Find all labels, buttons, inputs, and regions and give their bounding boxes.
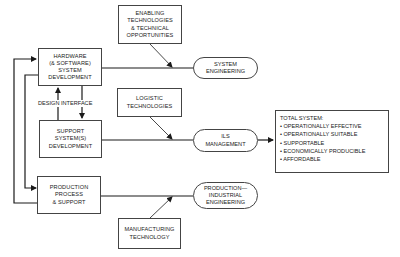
logistic-technologies-box: LOGISTIC TECHNOLOGIES [117,88,182,117]
total-system-title: TOTAL SYSTEM: [280,114,384,122]
box-line: & TECHNICAL [131,25,169,32]
box-line: DEVELOPMENT [49,143,92,150]
production-process-support-box: PRODUCTION PROCESS & SUPPORT [37,176,101,214]
oval-line: MANAGEMENT [205,141,245,148]
ils-management-oval: ILS MANAGEMENT [193,129,258,152]
total-system-box: TOTAL SYSTEM: • OPERATIONALLY EFFECTIVE … [275,110,389,173]
total-system-item: • AFFORDABLE [280,155,384,163]
box-line: SYSTEM [58,67,82,74]
oval-line: SYSTEM [214,61,237,68]
box-line: DEVELOPMENT [48,74,91,81]
enabling-technologies-box: ENABLING TECHNOLOGIES & TECHNICAL OPPORT… [118,5,182,44]
box-line: TECHNOLOGIES [127,103,173,110]
design-interface-label: DESIGN INTERFACE [37,100,93,107]
total-system-item: • OPERATIONALLY SUITABLE [280,130,384,138]
box-line: OPPORTUNITIES [127,32,174,39]
box-line: SYSTEM(S) [55,135,86,142]
box-line: MANUFACTURING [124,226,174,233]
box-line: HARDWARE [53,53,86,60]
box-line: (& SOFTWARE) [49,60,91,67]
oval-line: ILS [221,133,229,140]
total-system-item: • ECONOMICALLY PRODUCIBLE [280,147,384,155]
system-engineering-oval: SYSTEM ENGINEERING [193,57,258,79]
oval-line: PRODUCTION— [204,185,247,192]
box-line: ENABLING [135,10,164,17]
box-line: LOGISTIC [136,95,163,102]
box-line: PROCESS [55,191,83,198]
oval-line: ENGINEERING [206,68,245,75]
support-systems-development-box: SUPPORT SYSTEM(S) DEVELOPMENT [39,120,102,158]
production-industrial-engineering-oval: PRODUCTION— INDUSTRIAL ENGINEERING [193,182,258,209]
hardware-software-development-box: HARDWARE (& SOFTWARE) SYSTEM DEVELOPMENT [38,48,102,86]
box-line: TECHNOLOGY [129,234,169,241]
box-line: & SUPPORT [52,199,85,206]
box-line: SUPPORT [57,128,85,135]
box-line: TECHNOLOGIES [127,17,173,24]
oval-line: INDUSTRIAL [209,192,242,199]
total-system-item: • OPERATIONALLY EFFECTIVE [280,122,384,130]
total-system-item: • SUPPORTABLE [280,139,384,147]
oval-line: ENGINEERING [206,199,245,206]
box-line: PRODUCTION [50,184,89,191]
manufacturing-technology-box: MANUFACTURING TECHNOLOGY [118,218,181,249]
